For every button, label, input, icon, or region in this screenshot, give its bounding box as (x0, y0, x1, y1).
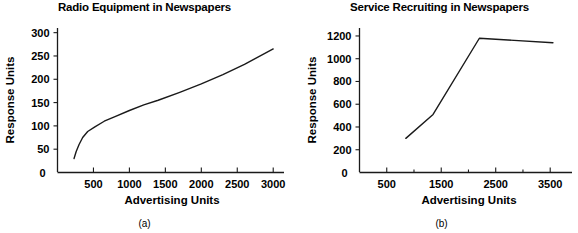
x-axis-title-a: Advertising Units (124, 194, 219, 206)
x-tick-label-2000: 2000 (189, 178, 213, 190)
x-tick-label-group-a: 50010001500200025003000 (84, 178, 285, 190)
x-tick-label-500: 500 (84, 178, 102, 190)
y-tick-label-50: 50 (37, 143, 49, 155)
y-tick-label-0: 0 (39, 167, 45, 179)
y-tick-label-1000: 1000 (327, 53, 351, 65)
y-tick-label-600: 600 (333, 98, 351, 110)
y-tick-label-250: 250 (31, 50, 49, 62)
y-tick-label-group-a: 050100150200250300 (31, 27, 49, 179)
x-tick-label-3000: 3000 (261, 178, 285, 190)
x-tick-label-3500: 3500 (538, 178, 562, 190)
x-tick-label-1500: 1500 (153, 178, 177, 190)
x-tick-label-1000: 1000 (117, 178, 141, 190)
y-tick-label-100: 100 (31, 120, 49, 132)
y-tick-label-300: 300 (31, 27, 49, 39)
y-tick-label-group-b: 020040060080010001200 (327, 30, 351, 179)
data-series-line-b (406, 38, 553, 138)
y-tick-label-200: 200 (333, 144, 351, 156)
y-axis-title-a: Response Units (4, 57, 16, 144)
y-tick-label-800: 800 (333, 75, 351, 87)
y-axis-title-b: Response Units (306, 57, 318, 144)
x-tick-label-2500: 2500 (483, 178, 507, 190)
x-tick-group-b (387, 168, 550, 173)
chart-plot-a: 050100150200250300 500100015002000250030… (0, 0, 289, 233)
chart-panel-a: Radio Equipment in Newspapers 0501001502… (0, 0, 289, 233)
chart-plot-b: 020040060080010001200 500150025003500 Ad… (289, 0, 578, 233)
figure-container: Radio Equipment in Newspapers 0501001502… (0, 0, 578, 233)
x-tick-label-2500: 2500 (225, 178, 249, 190)
panel-caption-a: (a) (0, 218, 289, 229)
x-tick-label-500: 500 (378, 178, 396, 190)
y-tick-label-200: 200 (31, 73, 49, 85)
x-tick-label-group-b: 500150025003500 (378, 178, 563, 190)
chart-panel-b: Service Recruiting in Newspapers 0200400… (289, 0, 578, 233)
data-series-line-a (74, 49, 273, 159)
y-tick-label-1200: 1200 (327, 30, 351, 42)
x-tick-label-1500: 1500 (429, 178, 453, 190)
y-tick-label-0: 0 (341, 167, 347, 179)
y-tick-label-150: 150 (31, 97, 49, 109)
panel-caption-b: (b) (297, 218, 578, 229)
x-tick-group-a (93, 168, 273, 173)
y-tick-label-400: 400 (333, 121, 351, 133)
x-axis-title-b: Advertising Units (421, 194, 516, 206)
